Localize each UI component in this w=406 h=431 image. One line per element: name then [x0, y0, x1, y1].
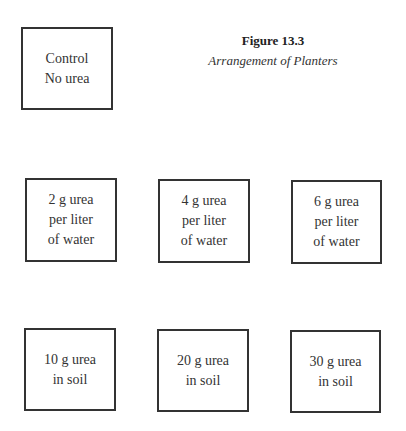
planter-label-line: of water	[48, 230, 94, 250]
planter-label-line: 4 g urea	[181, 191, 226, 211]
planter-label-line: 6 g urea	[314, 192, 359, 212]
figure-caption: Arrangement of Planters	[180, 53, 366, 69]
planter-label-line: in soil	[53, 370, 88, 390]
planter-water-2g: 2 g urea per liter of water	[25, 178, 117, 262]
planter-water-6g: 6 g urea per liter of water	[291, 180, 382, 264]
planter-label-line: in soil	[186, 371, 221, 391]
planter-water-4g: 4 g urea per liter of water	[158, 179, 250, 263]
planter-label-line: of water	[313, 232, 359, 252]
planter-control: Control No urea	[21, 27, 113, 110]
planter-label-line: No urea	[45, 69, 90, 89]
planter-label-line: 20 g urea	[177, 351, 229, 371]
planter-label-line: per liter	[182, 211, 226, 231]
planter-label-line: per liter	[49, 210, 93, 230]
planter-label-line: 2 g urea	[48, 190, 93, 210]
figure-title: Figure 13.3	[180, 33, 366, 49]
planter-soil-10g: 10 g urea in soil	[24, 328, 116, 411]
planter-label-line: Control	[46, 49, 89, 69]
planter-label-line: 30 g urea	[309, 352, 361, 372]
planter-soil-20g: 20 g urea in soil	[157, 329, 249, 412]
planter-label-line: in soil	[318, 372, 353, 392]
planter-label-line: 10 g urea	[44, 350, 96, 370]
planter-label-line: of water	[181, 231, 227, 251]
planter-label-line: per liter	[315, 212, 359, 232]
planter-soil-30g: 30 g urea in soil	[290, 330, 381, 413]
